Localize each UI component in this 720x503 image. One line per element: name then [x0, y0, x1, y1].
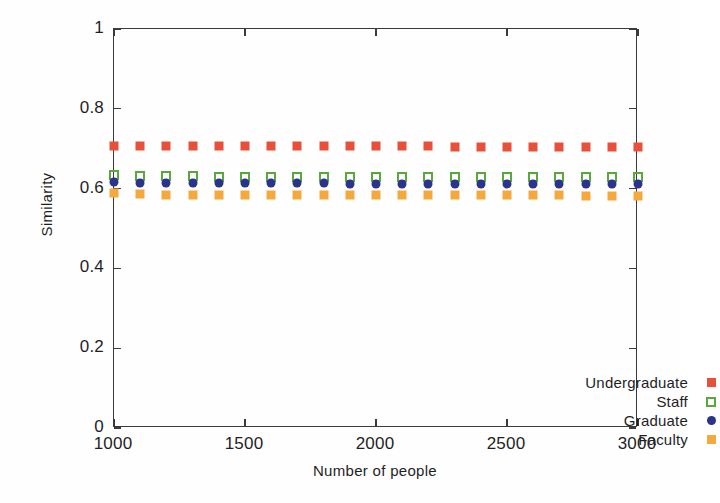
y-tick-mark: [114, 427, 121, 428]
y-tick-mark: [629, 108, 636, 109]
data-point: [372, 142, 381, 151]
legend-marker: [688, 395, 720, 409]
data-point: [267, 142, 276, 151]
legend-label: Undergraduate: [585, 374, 688, 391]
data-point: [110, 142, 119, 151]
data-point: [450, 191, 459, 200]
data-point: [241, 190, 250, 199]
data-point: [398, 191, 407, 200]
data-point: [372, 191, 381, 200]
data-point: [450, 179, 459, 188]
data-point: [581, 142, 590, 151]
data-point: [241, 179, 250, 188]
x-tick-mark: [244, 419, 245, 426]
y-tick-mark: [114, 348, 121, 349]
legend-entry: Staff: [534, 392, 720, 411]
x-tick-mark: [113, 419, 114, 426]
legend-marker: [688, 433, 720, 447]
data-point: [529, 180, 538, 189]
y-tick-label: 1: [94, 18, 104, 38]
data-point: [555, 180, 564, 189]
x-tick-mark: [244, 29, 245, 36]
data-point: [293, 190, 302, 199]
y-tick-label: 0.2: [80, 337, 104, 357]
x-axis-tick-labels: 10001500200025003000: [113, 434, 637, 458]
data-point: [503, 191, 512, 200]
data-point: [529, 191, 538, 200]
data-point: [476, 142, 485, 151]
y-tick-label: 0.4: [80, 257, 104, 277]
x-tick-mark: [637, 29, 638, 36]
data-point: [555, 191, 564, 200]
data-point: [607, 142, 616, 151]
legend-entry: Graduate: [534, 411, 720, 430]
data-point: [319, 179, 328, 188]
data-point: [372, 179, 381, 188]
data-point: [424, 179, 433, 188]
data-point: [450, 142, 459, 151]
data-point: [398, 179, 407, 188]
x-axis-title: Number of people: [113, 462, 637, 479]
data-point: [634, 180, 643, 189]
data-point: [607, 191, 616, 200]
data-point: [110, 177, 119, 186]
legend-label: Staff: [656, 393, 688, 410]
data-point: [634, 191, 643, 200]
x-tick-mark: [113, 29, 114, 36]
x-tick-label: 2000: [356, 434, 395, 454]
data-point: [581, 191, 590, 200]
data-point: [476, 191, 485, 200]
plot-area: UndergraduateStaffGraduateFaculty: [113, 28, 637, 427]
y-tick-mark: [114, 108, 121, 109]
data-point: [214, 190, 223, 199]
data-point: [162, 179, 171, 188]
y-tick-mark: [629, 268, 636, 269]
data-point: [136, 142, 145, 151]
data-point: [345, 179, 354, 188]
legend-label: Graduate: [624, 412, 688, 429]
x-tick-label: 1000: [94, 434, 133, 454]
data-point: [188, 179, 197, 188]
data-point: [607, 180, 616, 189]
y-tick-mark: [114, 28, 121, 29]
x-tick-mark: [375, 29, 376, 36]
data-point: [293, 179, 302, 188]
data-point: [162, 190, 171, 199]
x-tick-mark: [506, 419, 507, 426]
data-point: [214, 141, 223, 150]
x-tick-mark: [375, 419, 376, 426]
data-point: [319, 190, 328, 199]
data-point: [267, 190, 276, 199]
y-tick-mark: [629, 28, 636, 29]
data-point: [319, 142, 328, 151]
data-point: [188, 190, 197, 199]
data-point: [267, 179, 276, 188]
x-tick-label: 2500: [487, 434, 526, 454]
data-point: [476, 179, 485, 188]
y-tick-label: 0.6: [80, 178, 104, 198]
data-point: [110, 189, 119, 198]
x-tick-label: 1500: [225, 434, 264, 454]
x-tick-label: 3000: [618, 434, 657, 454]
data-point: [424, 191, 433, 200]
y-axis-title: Similarity: [38, 135, 55, 275]
y-tick-mark: [629, 348, 636, 349]
data-point: [136, 178, 145, 187]
x-tick-mark: [506, 29, 507, 36]
data-point: [529, 142, 538, 151]
data-point: [555, 142, 564, 151]
data-point: [503, 142, 512, 151]
data-point: [503, 179, 512, 188]
data-point: [214, 179, 223, 188]
legend-marker: [688, 376, 720, 390]
data-point: [241, 142, 250, 151]
data-point: [293, 142, 302, 151]
data-point: [345, 142, 354, 151]
data-point: [162, 141, 171, 150]
data-point: [345, 191, 354, 200]
y-tick-label: 0.8: [80, 98, 104, 118]
legend-entry: Undergraduate: [534, 373, 720, 392]
data-point: [424, 142, 433, 151]
data-point: [581, 180, 590, 189]
